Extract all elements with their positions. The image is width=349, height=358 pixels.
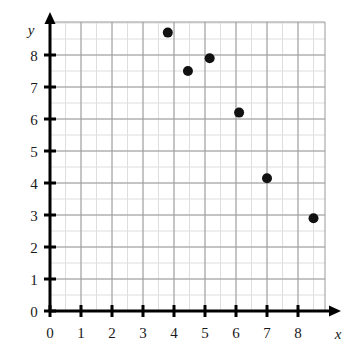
data-point: [262, 173, 272, 183]
x-tick-label: 8: [294, 325, 302, 341]
y-tick-label: 3: [30, 208, 38, 224]
x-tick-label: 4: [170, 325, 178, 341]
x-tick-label: 5: [201, 325, 209, 341]
y-axis-arrowhead: [45, 12, 56, 24]
tick-marks: [44, 55, 298, 317]
y-tick-label: 0: [30, 304, 38, 320]
data-point: [163, 28, 173, 38]
data-point: [309, 213, 319, 223]
x-tick-label: 6: [232, 325, 240, 341]
data-point: [183, 66, 193, 76]
data-points-group: [163, 28, 319, 224]
scatter-plot-figure: 012345678012345678 xy: [0, 0, 349, 358]
minor-gridlines: [50, 22, 325, 311]
y-tick-label: 8: [30, 48, 38, 64]
y-tick-label: 1: [30, 272, 38, 288]
x-axis-arrowhead: [329, 306, 341, 317]
tick-labels-group: 012345678012345678: [30, 48, 302, 342]
x-axis-label: x: [334, 326, 342, 342]
data-point: [234, 108, 244, 118]
x-tick-label: 7: [263, 325, 271, 341]
y-tick-label: 7: [30, 80, 38, 96]
x-tick-label: 3: [139, 325, 147, 341]
y-tick-label: 5: [30, 144, 38, 160]
y-tick-label: 4: [30, 176, 38, 192]
x-tick-label: 2: [108, 325, 116, 341]
x-tick-label: 0: [46, 325, 54, 341]
y-tick-label: 2: [30, 240, 38, 256]
axes-group: [45, 12, 342, 317]
x-tick-label: 1: [77, 325, 85, 341]
data-point: [205, 53, 215, 63]
y-tick-label: 6: [30, 112, 38, 128]
y-axis-label: y: [26, 22, 35, 38]
plot-canvas: 012345678012345678 xy: [0, 0, 349, 358]
